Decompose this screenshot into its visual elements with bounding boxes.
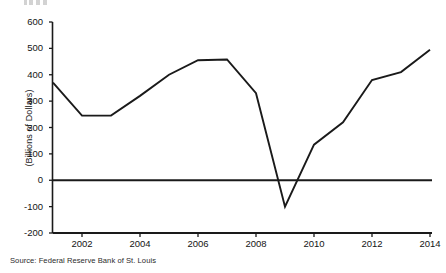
- y-tick-label-text: 200: [13, 123, 43, 133]
- y-tick-label-text: -100: [13, 202, 43, 212]
- x-tick-label: 2008: [236, 238, 276, 249]
- source-note: Source: Federal Reserve Bank of St. Loui…: [10, 256, 156, 265]
- y-tick-label: 600: [13, 17, 43, 27]
- y-tick-label: 200: [13, 123, 43, 133]
- data-series-line: [53, 50, 430, 207]
- chart-axes: [53, 22, 433, 233]
- x-tick-label: 2002: [62, 238, 102, 249]
- y-tick-label-text: 400: [13, 70, 43, 80]
- x-tick-label: 2012: [352, 238, 392, 249]
- x-tick-label: 2004: [120, 238, 160, 249]
- line-chart-plot: [0, 0, 446, 273]
- y-tick-label-text: 600: [13, 17, 43, 27]
- chart-tick-marks: [49, 22, 430, 237]
- y-tick-label: 300: [13, 96, 43, 106]
- y-tick-label-text: 100: [13, 149, 43, 159]
- y-tick-label: 0: [13, 175, 43, 185]
- y-tick-label: 400: [13, 70, 43, 80]
- chart-figure: (Billions of Dollars) 600500400300200100…: [0, 0, 446, 273]
- y-tick-label-text: 0: [13, 175, 43, 185]
- y-tick-label-text: 500: [13, 43, 43, 53]
- y-tick-label: -100: [13, 202, 43, 212]
- x-tick-label: 2010: [294, 238, 334, 249]
- y-tick-label-text: -200: [13, 228, 43, 238]
- x-tick-label: 2014: [410, 238, 446, 249]
- y-tick-label-text: 300: [13, 96, 43, 106]
- y-tick-label: -200: [13, 228, 43, 238]
- y-tick-label: 500: [13, 43, 43, 53]
- y-tick-label: 100: [13, 149, 43, 159]
- x-tick-label: 2006: [178, 238, 218, 249]
